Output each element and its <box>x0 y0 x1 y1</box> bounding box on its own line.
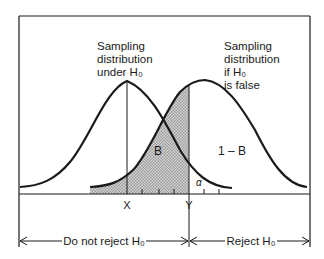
do-not-reject-label: Do not reject H₀ <box>63 235 145 247</box>
alt-dist-label-line3: if H₀ <box>224 66 246 78</box>
alt-distribution-curve <box>90 80 307 187</box>
null-dist-label-line3: under H₀ <box>97 66 143 78</box>
reject-label: Reject H₀ <box>227 235 276 247</box>
x-marker-label: X <box>123 199 131 211</box>
alpha-label: α <box>196 177 202 188</box>
y-marker-label: Y <box>185 199 193 211</box>
null-dist-label-line1: Sampling <box>97 40 145 52</box>
alt-dist-label-line2: distribution <box>224 53 280 65</box>
beta-label: B <box>154 144 162 158</box>
hypothesis-test-diagram: Sampling distribution under H₀ Sampling … <box>0 0 324 259</box>
alt-dist-label-line1: Sampling <box>224 40 272 52</box>
power-label: 1 – B <box>218 144 246 158</box>
null-dist-label-line2: distribution <box>97 53 153 65</box>
null-distribution-curve <box>20 81 232 188</box>
alt-dist-label-line4: is false <box>224 79 260 91</box>
